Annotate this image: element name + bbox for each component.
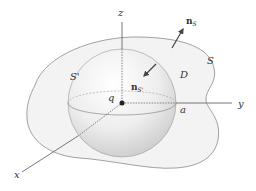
normal-outer-label: nS [186, 16, 197, 27]
charge-q-point [120, 101, 125, 106]
outer-surface-label: S [207, 55, 214, 66]
z-axis-label: z [117, 7, 124, 18]
x-axis-label: x [14, 169, 20, 180]
inner-surface-label: S' [70, 71, 80, 82]
y-axis-label: y [237, 98, 244, 109]
region-d-label: D [179, 69, 188, 80]
charge-q-label: q [108, 92, 114, 103]
radius-a-label: a [180, 104, 186, 115]
diagram: z y x S S' D q a nS nS' [0, 0, 256, 191]
